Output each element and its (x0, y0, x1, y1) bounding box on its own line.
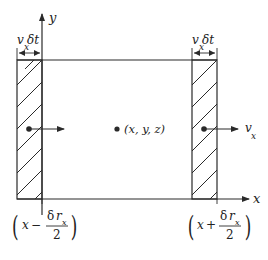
left-label-denominator: 2 (53, 228, 61, 242)
y-axis-label: y (48, 10, 57, 25)
y-axis: y (42, 10, 57, 215)
right-width-label: v (192, 33, 199, 47)
right-label-denominator: 2 (226, 228, 234, 242)
left-label-open-paren: ( (12, 211, 19, 243)
left-width-label: v (17, 33, 24, 47)
right-label-operator: + (206, 218, 216, 232)
right-label-numerator-delta: δ (220, 209, 227, 223)
right-hatched-strip (192, 60, 217, 207)
center-point-dot (114, 126, 119, 131)
right-position-label: ( x + δ r x 2 ) (188, 209, 252, 242)
left-label-numerator-delta: δ (47, 209, 54, 223)
right-width-label-delta-t: δt (202, 33, 214, 47)
right-label-x: x (197, 218, 204, 232)
center-point-label: (x, y, z) (124, 122, 165, 136)
left-flow-arrow (26, 126, 64, 132)
diagram-canvas: y x (0, 0, 268, 260)
left-width-dimension: v x δt (17, 33, 40, 60)
center-point: (x, y, z) (114, 122, 165, 136)
right-label-close-paren: ) (245, 211, 252, 243)
right-label-open-paren: ( (188, 211, 195, 243)
right-strip-hatching (192, 60, 217, 207)
left-strip-hatching (17, 60, 42, 217)
left-label-close-paren: ) (71, 211, 78, 243)
right-flow-arrow: v x (201, 121, 256, 141)
right-width-dimension: v x δt (192, 33, 217, 60)
left-position-label: ( x − δ r x 2 ) (12, 209, 77, 242)
control-volume-diagram: y x (0, 0, 268, 260)
x-axis-label: x (253, 191, 261, 206)
left-label-x: x (22, 218, 29, 232)
left-width-label-delta-t: δt (27, 33, 39, 47)
x-axis: x (17, 191, 261, 206)
left-hatched-strip (17, 60, 42, 217)
right-flow-label-subscript: x (251, 131, 256, 141)
left-label-operator: − (31, 218, 41, 232)
